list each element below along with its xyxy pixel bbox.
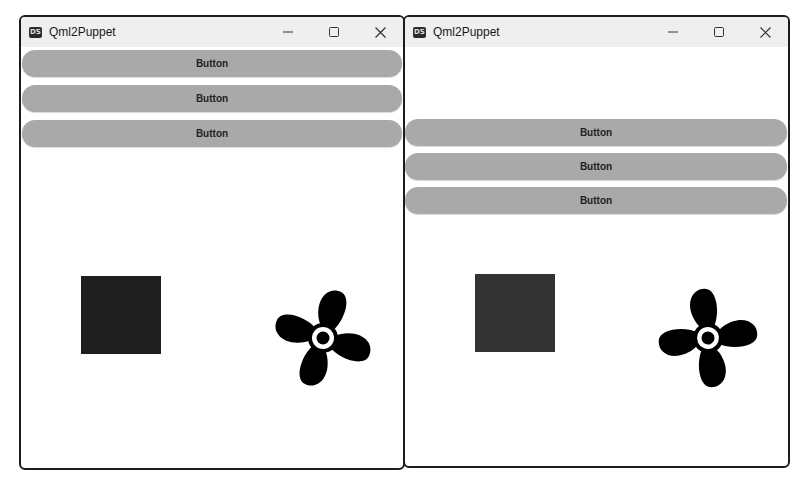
title-bar[interactable]: DS Qml2Puppet xyxy=(405,17,788,47)
minimize-icon xyxy=(283,27,293,37)
window-title: Qml2Puppet xyxy=(433,25,500,39)
button-3[interactable]: Button xyxy=(22,120,402,147)
window-controls xyxy=(650,17,788,47)
button-3[interactable]: Button xyxy=(405,187,787,214)
title-bar[interactable]: DS Qml2Puppet xyxy=(21,17,403,47)
app-icon: DS xyxy=(413,27,426,38)
app-icon: DS xyxy=(29,27,42,38)
window-title: Qml2Puppet xyxy=(49,25,116,39)
dark-square xyxy=(475,274,555,352)
fan-icon xyxy=(268,283,378,393)
maximize-button[interactable] xyxy=(311,17,357,47)
button-2[interactable]: Button xyxy=(405,153,787,180)
window-right: DS Qml2Puppet Button Button Button xyxy=(403,15,790,468)
minimize-button[interactable] xyxy=(265,17,311,47)
close-button[interactable] xyxy=(742,17,788,47)
button-2[interactable]: Button xyxy=(22,85,402,112)
fan-icon xyxy=(651,281,765,395)
close-icon xyxy=(375,27,386,38)
maximize-icon xyxy=(714,27,724,37)
button-1[interactable]: Button xyxy=(405,119,787,146)
minimize-button[interactable] xyxy=(650,17,696,47)
minimize-icon xyxy=(668,27,678,37)
maximize-button[interactable] xyxy=(696,17,742,47)
close-button[interactable] xyxy=(357,17,403,47)
dark-square xyxy=(81,276,161,354)
close-icon xyxy=(760,27,771,38)
maximize-icon xyxy=(329,27,339,37)
window-controls xyxy=(265,17,403,47)
button-1[interactable]: Button xyxy=(22,50,402,77)
window-left: DS Qml2Puppet Button Button Button xyxy=(19,15,405,470)
